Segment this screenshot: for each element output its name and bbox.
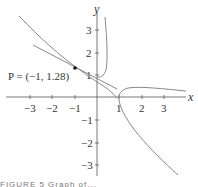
point-p-label: P = (−1, 1.28) — [8, 70, 70, 83]
x-tick-label: −3 — [24, 102, 36, 114]
x-tick-label: −2 — [46, 102, 58, 114]
y-tick-label: 3 — [86, 24, 92, 36]
curve-branch-upper-left — [19, 16, 117, 98]
x-axis-label: x — [187, 90, 194, 104]
y-tick-label: −2 — [81, 137, 93, 149]
curve-branch-vertical — [97, 17, 107, 77]
plot-canvas: −3 −2 −1 1 2 3 3 2 1 −1 −2 −3 x y P = (−… — [0, 0, 198, 187]
y-tick-label: −1 — [81, 114, 93, 126]
curve-branch-right — [119, 87, 186, 175]
x-tick-label: 2 — [139, 102, 145, 114]
y-axis-label: y — [93, 2, 100, 16]
x-tick-label: −1 — [69, 102, 81, 114]
y-tick-label: −3 — [81, 159, 93, 171]
figure-caption: FIGURE 5 Graph of... — [0, 180, 97, 187]
y-tick-label: 2 — [86, 47, 92, 59]
x-tick-label: 1 — [116, 102, 122, 114]
point-p — [73, 66, 77, 70]
x-tick-label: 3 — [161, 102, 167, 114]
